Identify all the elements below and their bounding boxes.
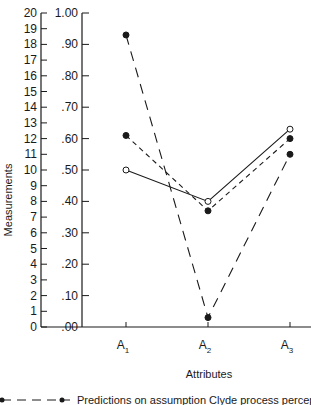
right-tick-label: .60	[61, 132, 78, 146]
right-tick-label: .30	[61, 226, 78, 240]
right-tick-label: .70	[61, 100, 78, 114]
filled-circle-marker	[123, 132, 129, 138]
left-tick-label: 9	[30, 179, 37, 193]
series-line	[126, 35, 290, 318]
filled-circle-marker	[205, 315, 211, 321]
filled-circle-marker	[123, 32, 129, 38]
left-tick-label: 17	[24, 53, 38, 67]
filled-circle-marker	[205, 208, 211, 214]
left-tick-label: 8	[30, 194, 37, 208]
open-circle-marker	[205, 198, 211, 204]
right-tick-label: .10	[61, 289, 78, 303]
y-axis-title: Measurements	[2, 163, 14, 236]
left-tick-label: 13	[24, 116, 38, 130]
series-line	[126, 129, 290, 201]
legend: Predictions on assumption Clyde process …	[0, 394, 311, 405]
right-tick-label: .50	[61, 163, 78, 177]
left-tick-label: 0	[30, 320, 37, 334]
left-tick-label: 2	[30, 289, 37, 303]
x-tick-label: A3	[281, 338, 294, 355]
open-circle-marker	[123, 167, 129, 173]
left-tick-label: 15	[24, 85, 38, 99]
left-tick-label: 11	[25, 147, 38, 161]
left-tick-label: 16	[24, 69, 38, 83]
left-tick-label: 6	[30, 226, 37, 240]
legend-marker-filled-circle	[0, 398, 5, 403]
open-circle-marker	[287, 126, 293, 132]
left-tick-label: 10	[24, 163, 38, 177]
left-tick-label: 12	[24, 132, 38, 146]
chart: 01234567891011121314151617181920 .00.10.…	[0, 0, 311, 405]
filled-circle-marker	[287, 151, 293, 157]
x-axis-title: Attributes	[186, 368, 233, 380]
left-tick-label: 3	[30, 273, 37, 287]
left-tick-label: 14	[24, 100, 38, 114]
right-tick-label: .40	[61, 194, 78, 208]
left-y-axis: 01234567891011121314151617181920	[24, 6, 47, 334]
left-tick-label: 4	[30, 257, 37, 271]
legend-marker-filled-circle	[60, 398, 65, 403]
x-tick-label: A2	[199, 338, 212, 355]
left-tick-label: 20	[24, 6, 38, 20]
x-tick-label: A1	[117, 338, 130, 355]
right-tick-label: .90	[61, 37, 78, 51]
left-tick-label: 1	[30, 304, 37, 318]
filled-circle-marker	[287, 136, 293, 142]
series-open-circle-solid	[123, 126, 293, 204]
left-tick-label: 19	[24, 22, 38, 36]
right-tick-label: .80	[61, 69, 78, 83]
series-filled-circle-long-dash	[123, 32, 293, 321]
legend-text: Predictions on assumption Clyde process …	[77, 394, 311, 405]
left-tick-label: 18	[24, 37, 38, 51]
right-tick-label: 1.00	[55, 6, 79, 20]
data-series	[123, 32, 293, 321]
right-y-axis: .00.10.20.30.40.50.60.70.80.901.00	[55, 6, 89, 334]
x-axis: A1A2A3	[41, 322, 311, 355]
right-tick-label: .20	[61, 257, 78, 271]
left-tick-label: 7	[30, 210, 37, 224]
left-tick-label: 5	[30, 242, 37, 256]
